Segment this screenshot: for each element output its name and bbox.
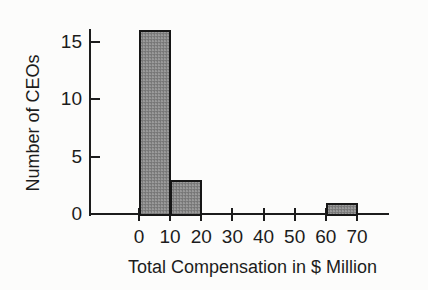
- histogram-bar: [326, 203, 358, 217]
- histogram-bar: [139, 30, 171, 216]
- x-tick-label: 0: [123, 227, 155, 247]
- y-tick: [90, 213, 100, 215]
- x-tick: [294, 208, 296, 221]
- x-tick-label: 10: [154, 227, 186, 247]
- y-tick-label: 0: [40, 204, 82, 224]
- histogram-bar: [170, 180, 202, 217]
- y-tick-label: 10: [40, 89, 82, 109]
- y-tick-label: 5: [40, 147, 82, 167]
- x-tick-label: 40: [248, 227, 280, 247]
- y-tick: [90, 41, 100, 43]
- x-tick: [231, 208, 233, 221]
- y-tick: [90, 98, 100, 100]
- x-tick-label: 60: [310, 227, 342, 247]
- histogram-figure: 051015010203040506070 Number of CEOs Tot…: [0, 0, 428, 290]
- y-axis-label: Number of CEOs: [23, 54, 44, 191]
- x-tick-label: 30: [216, 227, 248, 247]
- y-tick-label: 15: [40, 32, 82, 52]
- x-tick: [263, 208, 265, 221]
- y-axis-line: [89, 29, 91, 216]
- y-tick: [90, 156, 100, 158]
- x-tick-label: 50: [279, 227, 311, 247]
- plot-area: 051015010203040506070: [0, 0, 428, 290]
- x-tick-label: 70: [341, 227, 373, 247]
- x-axis-label: Total Compensation in $ Million: [128, 257, 366, 278]
- x-tick-label: 20: [185, 227, 217, 247]
